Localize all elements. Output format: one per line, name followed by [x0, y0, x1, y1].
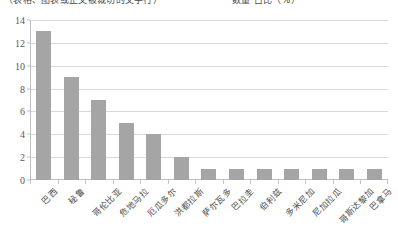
- bar-slot: [223, 20, 251, 180]
- plot-area: 02468101214: [30, 20, 388, 180]
- y-tick-label: 8: [20, 83, 25, 94]
- x-axis-labels: 巴西秘鲁哥伦比亚危地马拉厄瓜多尔洪都拉斯萨尔瓦多巴拉圭伯利兹多米尼加尼加拉瓜哥斯…: [30, 185, 388, 243]
- bar-slot: [30, 20, 58, 180]
- x-tick-mark: [360, 180, 361, 184]
- bar-slot: [333, 20, 361, 180]
- bar[interactable]: [284, 169, 299, 180]
- bar-slot: [250, 20, 278, 180]
- x-tick-mark: [387, 180, 388, 184]
- y-tick-label: 10: [15, 60, 25, 71]
- x-tick-slot: [223, 180, 251, 184]
- y-tick-label: 4: [20, 129, 25, 140]
- x-label-slot: 巴西: [30, 185, 58, 243]
- bar[interactable]: [174, 157, 189, 180]
- x-axis-category-label: 巴西: [40, 187, 59, 206]
- bar[interactable]: [91, 100, 106, 180]
- x-axis-category-label: 秘鲁: [68, 187, 87, 206]
- x-tick-mark: [30, 180, 31, 184]
- x-tick-slot: [113, 180, 141, 184]
- x-tick-slot: [195, 180, 223, 184]
- x-label-slot: 伯利兹: [250, 185, 278, 243]
- x-tick-slot: [85, 180, 113, 184]
- x-tick-slot: [140, 180, 168, 184]
- x-tick-mark: [223, 180, 224, 184]
- bar-slot: [168, 20, 196, 180]
- bar-slot: [140, 20, 168, 180]
- cropped-left-text: （表格、图表或正文被裁切的文字行）: [4, 0, 162, 6]
- x-tick-slot: [360, 180, 388, 184]
- bar[interactable]: [119, 123, 134, 180]
- bar[interactable]: [367, 169, 382, 180]
- x-tick-mark: [58, 180, 59, 184]
- x-axis-category-label: 巴拿马: [369, 187, 394, 212]
- x-label-slot: 尼加拉瓜: [305, 185, 333, 243]
- x-tick-slot: [30, 180, 58, 184]
- bar[interactable]: [339, 169, 354, 180]
- x-tick-mark: [113, 180, 114, 184]
- x-tick-slot: [168, 180, 196, 184]
- bar-chart: 02468101214 巴西秘鲁哥伦比亚危地马拉厄瓜多尔洪都拉斯萨尔瓦多巴拉圭伯…: [0, 9, 398, 244]
- x-axis-ticks: [30, 180, 388, 184]
- bar[interactable]: [312, 169, 327, 180]
- y-tick-label: 0: [20, 175, 25, 186]
- bar-slot: [305, 20, 333, 180]
- x-label-slot: 萨尔瓦多: [195, 185, 223, 243]
- cropped-right-text: 数量 占比（%）: [232, 0, 300, 6]
- x-tick-mark: [250, 180, 251, 184]
- x-label-slot: 危地马拉: [113, 185, 141, 243]
- bar[interactable]: [229, 169, 244, 180]
- y-tick-label: 2: [20, 152, 25, 163]
- x-tick-mark: [305, 180, 306, 184]
- x-tick-mark: [85, 180, 86, 184]
- x-tick-mark: [168, 180, 169, 184]
- bar[interactable]: [146, 134, 161, 180]
- x-tick-slot: [250, 180, 278, 184]
- x-label-slot: 巴拉圭: [223, 185, 251, 243]
- x-label-slot: 多米尼加: [278, 185, 306, 243]
- x-tick-slot: [58, 180, 86, 184]
- x-tick-mark: [333, 180, 334, 184]
- x-tick-mark: [140, 180, 141, 184]
- x-label-slot: 哥斯达黎加: [333, 185, 361, 243]
- x-label-slot: 哥伦比亚: [85, 185, 113, 243]
- x-label-slot: 洪都拉斯: [168, 185, 196, 243]
- y-tick-label: 12: [15, 37, 25, 48]
- bar-slot: [58, 20, 86, 180]
- y-tick-label: 6: [20, 106, 25, 117]
- bar-series: [30, 20, 388, 180]
- bar[interactable]: [36, 31, 51, 180]
- y-tick-label: 14: [15, 15, 25, 26]
- bar-slot: [278, 20, 306, 180]
- bar-slot: [85, 20, 113, 180]
- bar[interactable]: [64, 77, 79, 180]
- x-label-slot: 厄瓜多尔: [140, 185, 168, 243]
- bar[interactable]: [257, 169, 272, 180]
- bar[interactable]: [201, 169, 216, 180]
- x-tick-mark: [195, 180, 196, 184]
- x-label-slot: 秘鲁: [58, 185, 86, 243]
- x-label-slot: 巴拿马: [360, 185, 388, 243]
- x-tick-slot: [305, 180, 333, 184]
- x-tick-slot: [333, 180, 361, 184]
- bar-slot: [113, 20, 141, 180]
- x-tick-slot: [278, 180, 306, 184]
- x-tick-mark: [278, 180, 279, 184]
- cropped-text-strip: （表格、图表或正文被裁切的文字行） 数量 占比（%）: [0, 0, 398, 9]
- bar-slot: [360, 20, 388, 180]
- bar-slot: [195, 20, 223, 180]
